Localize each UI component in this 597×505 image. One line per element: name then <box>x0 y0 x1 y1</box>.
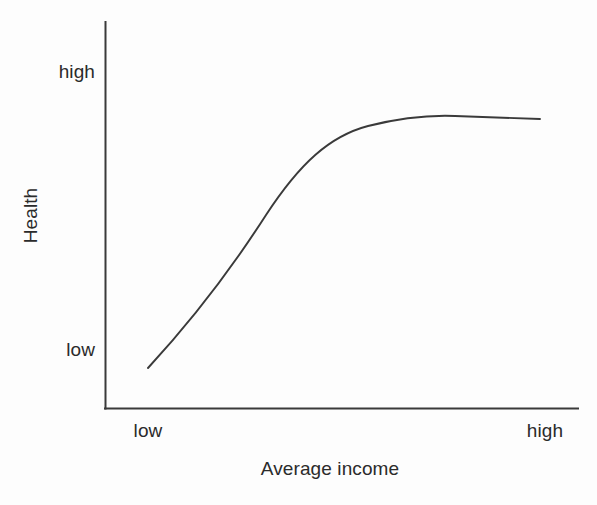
y-axis-title: Health <box>21 172 40 260</box>
data-curve-health-vs-income <box>148 116 540 368</box>
y-axis-tick-label-high: high <box>59 62 95 81</box>
x-axis-tick-label-high: high <box>513 421 577 440</box>
y-axis-tick-label-low: low <box>66 340 95 359</box>
chart-figure: high low low high Health Average income <box>0 0 597 505</box>
x-axis-title: Average income <box>190 459 470 478</box>
x-axis-tick-label-low: low <box>118 421 178 440</box>
